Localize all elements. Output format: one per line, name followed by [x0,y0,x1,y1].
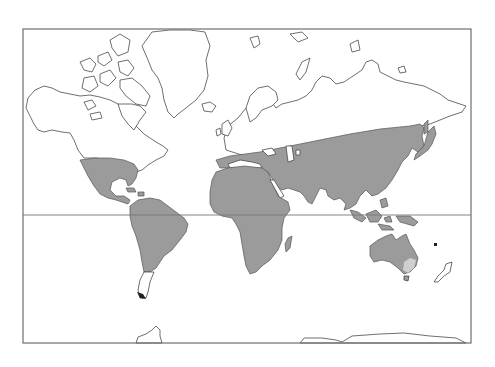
greenland [142,30,210,118]
range-north-america [80,158,138,204]
world-distribution-map [0,0,495,367]
antarctica [136,326,162,343]
range-south-america [130,198,188,272]
new-zealand [434,262,452,282]
